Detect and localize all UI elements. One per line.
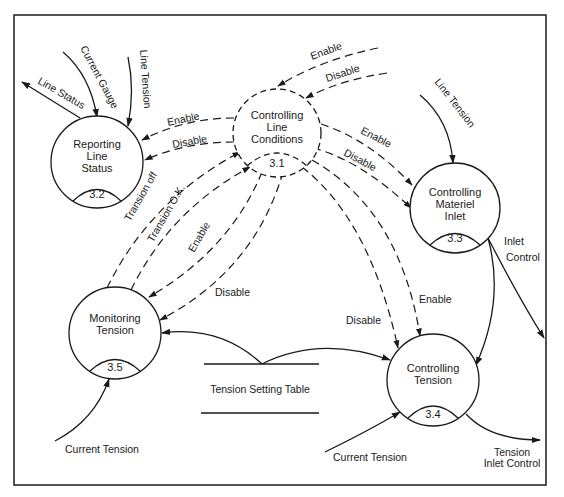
svg-text:3.3: 3.3 xyxy=(447,232,462,244)
svg-text:3.2: 3.2 xyxy=(89,188,104,200)
process-3-2: Reporting Line Status 3.2 xyxy=(51,116,143,208)
flow-line-tension-33 xyxy=(420,95,453,163)
flow-current-tension-35 xyxy=(55,379,109,441)
label-line-tension-33: Line Tension xyxy=(432,76,478,130)
process-3-4: Controlling Tension 3.4 xyxy=(387,334,479,426)
process-3-3: Controlling Materiel Inlet 3.3 xyxy=(410,163,500,253)
label-inlet-control-2: Control xyxy=(506,251,540,263)
label-disable-32: Disable xyxy=(171,132,208,150)
label-line-tension-32: Line Tension xyxy=(138,49,154,109)
process-3-5: Monitoring Tension 3.5 xyxy=(69,287,161,379)
label-inlet-control-1: Inlet xyxy=(504,235,524,247)
process-3-1: Controlling Line Conditions 3.1 xyxy=(233,89,321,177)
label-enable-32: Enable xyxy=(166,109,201,128)
data-store-label: Tension Setting Table xyxy=(210,383,310,395)
flow-current-tension-34 xyxy=(325,412,400,452)
label-enable-35: Enable xyxy=(185,220,212,254)
flow-store-to-35 xyxy=(162,332,262,364)
flow-tension-inlet-control xyxy=(466,414,540,440)
label-disable-34: Disable xyxy=(346,314,381,326)
svg-text:Controlling: Controlling xyxy=(251,109,304,121)
label-tension-inlet-control-2: Inlet Control xyxy=(484,457,541,469)
data-flow-diagram: Tension Setting Table Controlling Line C… xyxy=(0,0,564,497)
svg-text:Monitoring: Monitoring xyxy=(89,312,140,324)
label-enable-34: Enable xyxy=(419,293,452,305)
flow-33-to-34 xyxy=(476,238,494,365)
svg-text:Inlet: Inlet xyxy=(445,210,466,222)
svg-text:Conditions: Conditions xyxy=(251,133,303,145)
svg-text:Status: Status xyxy=(81,162,113,174)
svg-text:Line: Line xyxy=(87,150,108,162)
flow-store-to-34 xyxy=(262,348,390,364)
label-line-status: Line Status xyxy=(36,74,88,111)
svg-text:Tension: Tension xyxy=(96,324,134,336)
svg-text:Tension: Tension xyxy=(414,374,452,386)
svg-text:Controlling: Controlling xyxy=(407,362,460,374)
svg-text:3.4: 3.4 xyxy=(425,408,440,420)
svg-text:3.5: 3.5 xyxy=(107,361,122,373)
label-enable-33: Enable xyxy=(359,124,394,150)
label-disable-in-31: Disable xyxy=(324,62,361,84)
svg-text:3.1: 3.1 xyxy=(269,157,284,169)
label-current-tension-35: Current Tension xyxy=(65,443,139,455)
label-disable-35: Disable xyxy=(215,286,250,298)
flow-line-tension-32 xyxy=(128,57,132,126)
svg-text:Line: Line xyxy=(267,121,288,133)
svg-text:Reporting: Reporting xyxy=(73,138,121,150)
label-current-tension-34: Current Tension xyxy=(333,451,407,463)
svg-text:Controlling: Controlling xyxy=(429,186,482,198)
svg-text:Materiel: Materiel xyxy=(435,198,474,210)
flow-enable-34 xyxy=(312,160,420,336)
